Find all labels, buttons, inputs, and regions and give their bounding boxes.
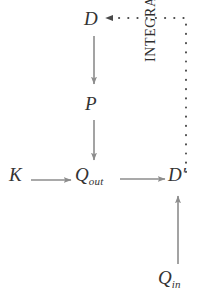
node-qout-subscript: out — [89, 175, 104, 187]
node-qout: Qout — [75, 165, 103, 184]
node-k: K — [9, 165, 22, 184]
node-p: P — [85, 94, 97, 113]
diagram-canvas: D P K Qout D′ Qin INTEGRATION — [0, 0, 206, 301]
node-p-label: P — [85, 93, 97, 114]
node-qin-subscript: in — [172, 278, 181, 290]
diagram-edges — [0, 0, 206, 301]
node-k-label: K — [9, 164, 22, 185]
node-qin: Qin — [158, 268, 181, 287]
node-d: D — [84, 9, 98, 28]
node-dprime-prime: ′ — [182, 164, 186, 185]
node-d-label: D — [84, 8, 98, 29]
node-dprime: D′ — [168, 165, 186, 184]
node-dprime-label: D — [168, 164, 182, 185]
node-qin-label: Q — [158, 267, 172, 288]
integration-label: INTEGRATION — [143, 0, 161, 76]
node-qout-label: Q — [75, 164, 89, 185]
